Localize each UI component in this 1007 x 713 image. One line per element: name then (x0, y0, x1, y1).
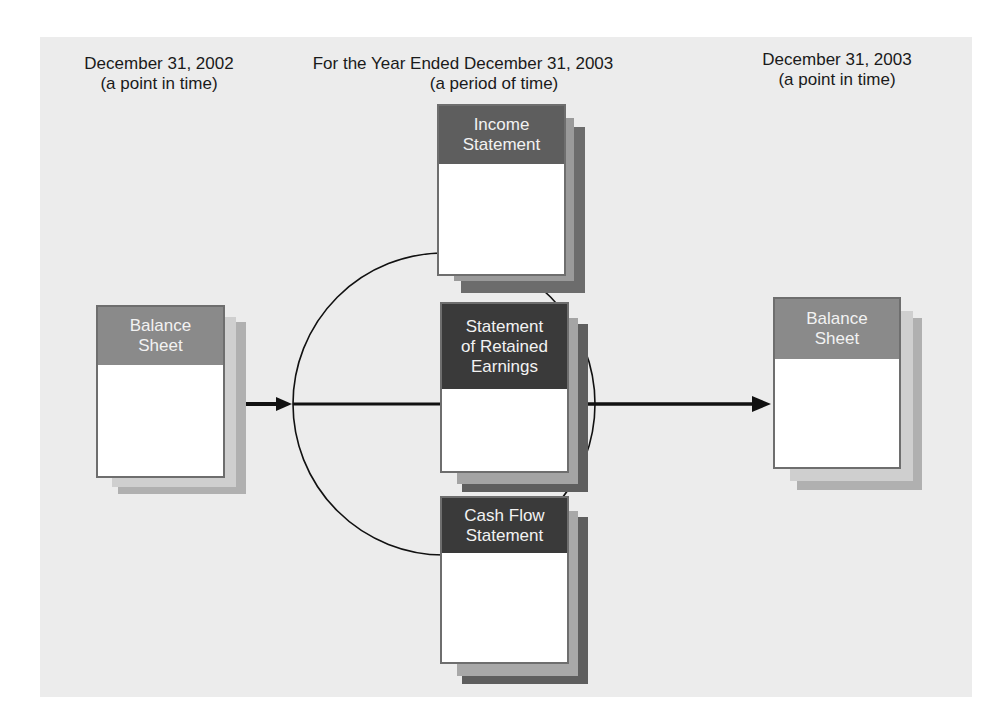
balance-sheet-end-header: Balance Sheet (775, 299, 899, 359)
balance-sheet-start-page: Balance Sheet (96, 305, 225, 478)
cash-flow-title-line2: Statement (466, 526, 544, 546)
income-statement-title-line1: Income (474, 115, 530, 135)
retained-earnings-title-line3: Earnings (471, 357, 538, 377)
retained-earnings-title-line2: of Retained (461, 337, 548, 357)
retained-earnings-page: Statement of Retained Earnings (440, 302, 569, 473)
arrow-out-head-icon (752, 396, 771, 412)
income-statement-header: Income Statement (439, 106, 564, 164)
cash-flow-header: Cash Flow Statement (442, 498, 567, 553)
balance-sheet-start-title-line2: Sheet (138, 336, 182, 356)
retained-earnings-title-line1: Statement (466, 317, 544, 337)
balance-sheet-end-title-line2: Sheet (815, 329, 859, 349)
cash-flow-page: Cash Flow Statement (440, 496, 569, 664)
balance-sheet-start-title-line1: Balance (130, 316, 191, 336)
income-statement-title-line2: Statement (463, 135, 541, 155)
balance-sheet-start-header: Balance Sheet (98, 307, 223, 365)
balance-sheet-end-title-line1: Balance (806, 309, 867, 329)
income-statement-page: Income Statement (437, 104, 566, 276)
cash-flow-title-line1: Cash Flow (464, 506, 544, 526)
balance-sheet-end-page: Balance Sheet (773, 297, 901, 469)
retained-earnings-header: Statement of Retained Earnings (442, 304, 567, 389)
arrow-in-head-icon (276, 397, 292, 411)
